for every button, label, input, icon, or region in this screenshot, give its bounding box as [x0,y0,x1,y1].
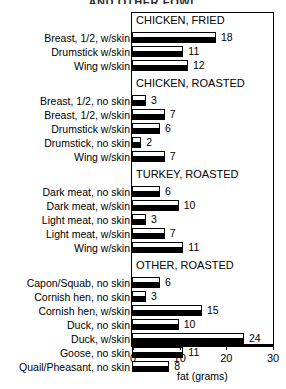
bar-container: 24 [132,332,286,346]
chart-row: Cornish hen, no skin3 [0,290,286,304]
bar-value-label: 7 [170,150,176,163]
bar-value-label: 15 [207,304,219,317]
x-axis-tick-label: 0 [121,352,145,365]
x-axis-tick [226,345,227,350]
bar-container: 3 [132,290,286,304]
bar-category-label: Cornish hen, no skin [0,290,130,304]
bar-value-label: 11 [188,241,199,254]
bar-value-label: 3 [151,94,157,107]
section-heading: CHICKEN, ROASTED [136,77,245,90]
bar-category-label: Wing w/skin [0,59,130,73]
chart-row: Light meat, no skin3 [0,213,286,227]
x-axis-title: fat (grams) [131,370,274,383]
bar-container: 11 [132,241,286,255]
chart-row: Wing w/skin11 [0,241,286,255]
section-heading: CHICKEN, FRIED [136,14,225,27]
x-axis-tick-label: 20 [214,352,238,365]
chart-row: Wing w/skin12 [0,59,286,73]
bar-shadow-face [132,234,165,239]
bar-shadow-face [132,339,244,344]
bar-container: 3 [132,213,286,227]
bar-shadow-face [132,220,146,225]
bar-category-label: Quail/Pheasant, no skin [0,360,130,374]
bar-container: 2 [132,136,286,150]
bar-category-label: Cornish hen, w/skin [0,304,130,318]
chart-row: Breast, 1/2, no skin3 [0,94,286,108]
chart-title: AND OTHER FOWL [0,0,286,4]
bar-shadow-face [132,129,160,134]
bar-value-label: 6 [165,276,171,289]
chart-row: Light meat, w/skin7 [0,227,286,241]
chart-row: Capon/Squab, no skin6 [0,276,286,290]
bar-category-label: Wing w/skin [0,241,130,255]
chart-row: Drumstick, no skin2 [0,136,286,150]
bar-shadow-face [132,115,165,120]
bar-category-label: Duck, no skin [0,318,130,332]
bar-value-label: 6 [165,122,171,135]
bar-category-label: Goose, no skin [0,346,130,360]
bar-value-label: 12 [193,59,205,72]
bar-container: 15 [132,304,286,318]
bar-category-label: Light meat, w/skin [0,227,130,241]
bar-category-label: Dark meat, w/skin [0,199,130,213]
bar-value-label: 7 [170,227,176,240]
bar-shadow-face [132,157,165,162]
x-axis-tick-label: 10 [168,352,192,365]
bar-shadow-face [132,206,179,211]
bar-category-label: Dark meat, no skin [0,185,130,199]
bar-category-label: Duck, w/skin [0,332,130,346]
bar-container: 11 [132,45,286,59]
bar-shadow-face [132,248,183,253]
chart-row: Cornish hen, w/skin15 [0,304,286,318]
chart-row: Drumstick w/skin6 [0,122,286,136]
bar-value-label: 11 [188,45,199,58]
x-axis-tick-label: 30 [261,352,285,365]
x-axis-tick [133,345,134,350]
bar-container: 7 [132,108,286,122]
bar-value-label: 3 [151,290,157,303]
section-heading: OTHER, ROASTED [136,259,234,272]
x-axis-tick [180,345,181,350]
bar-container: 10 [132,199,286,213]
bar-shadow-face [132,311,202,316]
bar-shadow-face [132,101,146,106]
bar-value-label: 3 [151,213,157,226]
bar-category-label: Drumstick w/skin [0,45,130,59]
x-axis-line [131,345,274,347]
bar-container: 7 [132,227,286,241]
chart-row: Drumstick w/skin11 [0,45,286,59]
bar-shadow-face [132,297,146,302]
bar-shadow-face [132,192,160,197]
bar-category-label: Drumstick w/skin [0,122,130,136]
bar-container: 7 [132,150,286,164]
bar-category-label: Breast, 1/2, w/skin [0,108,130,122]
bar-shadow-face [132,38,216,43]
chart-row: Duck, no skin10 [0,318,286,332]
bar-value-label: 10 [184,199,196,212]
bar-container: 18 [132,31,286,45]
fat-content-bar-chart: AND OTHER FOWL CHICKEN, FRIEDBreast, 1/2… [0,0,286,389]
x-axis-tick [273,345,274,350]
section-heading: TURKEY, ROASTED [136,168,239,181]
bar-shadow-face [132,325,179,330]
bar-container: 3 [132,94,286,108]
bar-container: 12 [132,59,286,73]
chart-row: Dark meat, w/skin10 [0,199,286,213]
bar-container: 10 [132,318,286,332]
bar-value-label: 18 [221,31,233,44]
chart-row: Breast, 1/2, w/skin18 [0,31,286,45]
bar-shadow-face [132,52,183,57]
bar-category-label: Capon/Squab, no skin [0,276,130,290]
bar-container: 6 [132,185,286,199]
bar-value-label: 6 [165,185,171,198]
bar-value-label: 2 [146,136,152,149]
bar-shadow-face [132,66,188,71]
bar-shadow-face [132,143,141,148]
bar-category-label: Wing w/skin [0,150,130,164]
chart-row: Wing w/skin7 [0,150,286,164]
bar-category-label: Drumstick, no skin [0,136,130,150]
bar-container: 6 [132,276,286,290]
bar-value-label: 10 [184,318,196,331]
chart-row: Duck, w/skin24 [0,332,286,346]
bar-category-label: Light meat, no skin [0,213,130,227]
